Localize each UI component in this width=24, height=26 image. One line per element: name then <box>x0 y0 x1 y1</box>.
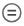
circled-equals-icon <box>0 0 24 26</box>
icon-bar-top <box>8 10 17 12</box>
icon-ring <box>3 4 21 22</box>
icon-bar-bottom <box>8 14 17 16</box>
circled-equals-button[interactable] <box>0 0 24 26</box>
